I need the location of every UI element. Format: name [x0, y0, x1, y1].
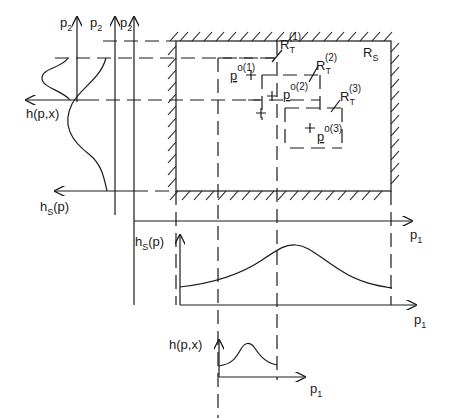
target-label-1: RT(1) [280, 31, 301, 55]
target-region-1 [218, 50, 282, 418]
hpx-plot-ylabel: h(p,x) [169, 337, 202, 352]
hs-plot-xlabel: p1 [414, 312, 426, 330]
p2-labels: p2 p2 p2 [60, 15, 132, 33]
region-rs-boundary [176, 41, 391, 191]
target-label-3: RT(3) [340, 83, 361, 107]
point-label-3: po(3) [317, 123, 342, 144]
hs-plot-curve [180, 245, 392, 288]
diagram-canvas: p2 p2 p2 h(p,x) hS(p) [0, 0, 454, 418]
main-p1-label: p1 [410, 227, 422, 245]
hpx-plot-curve [219, 343, 277, 366]
p2-label-2: p2 [90, 15, 102, 33]
point-label-2: po(2) [283, 81, 308, 102]
p2-label-3: p2 [120, 15, 132, 33]
p2-label-1: p2 [60, 15, 72, 33]
hpx-plot-xlabel: p1 [310, 381, 322, 399]
hatch-bottom [170, 191, 382, 200]
hpx-left-label: h(p,x) [26, 106, 59, 121]
hs-left-curve [68, 58, 107, 191]
hs-left-label: hS(p) [40, 199, 69, 217]
region-rs-label: RS [363, 45, 378, 63]
hpx-left-curve [42, 58, 70, 100]
hatch-left [168, 46, 176, 187]
hs-plot-ylabel: hS(p) [135, 234, 164, 252]
center-markers [246, 70, 315, 133]
target-label-2: RT(2) [316, 52, 337, 76]
diagram-svg: p2 p2 p2 h(p,x) hS(p) [0, 0, 454, 418]
hatch-right [391, 43, 399, 184]
